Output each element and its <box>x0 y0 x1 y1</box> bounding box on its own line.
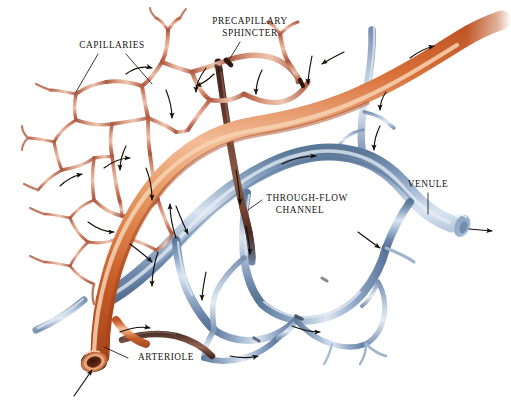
capillaries-label: CAPILLARIES <box>79 40 144 50</box>
through-flow-channel-label-line2: CHANNEL <box>276 205 324 215</box>
arteriole-label: ARTERIOLE <box>138 352 194 362</box>
arteriole-inflow-arrow <box>74 370 92 396</box>
through-flow-channel-leader <box>248 200 262 210</box>
precapillary-sphincter-label-line1: PRECAPILLARY <box>212 16 287 26</box>
illustration-canvas: CAPILLARIES PRECAPILLARY SPHINCTER THROU… <box>0 0 511 403</box>
venule-label: VENULE <box>408 179 448 189</box>
capillaries-leader-right <box>126 54 152 84</box>
label-arteriole: ARTERIOLE <box>104 347 194 362</box>
microcirculation-diagram: CAPILLARIES PRECAPILLARY SPHINCTER THROU… <box>0 0 511 403</box>
through-flow-channel-label-line1: THROUGH-FLOW <box>266 193 347 203</box>
label-through-flow-channel: THROUGH-FLOW CHANNEL <box>248 193 348 215</box>
venule-outflow-arrow <box>469 229 492 231</box>
precapillary-sphincter-label-line2: SPHINCTER <box>222 28 278 38</box>
capillary-network <box>22 8 244 304</box>
